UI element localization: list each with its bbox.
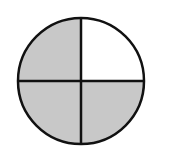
- fraction-circle-diagram: [0, 0, 191, 148]
